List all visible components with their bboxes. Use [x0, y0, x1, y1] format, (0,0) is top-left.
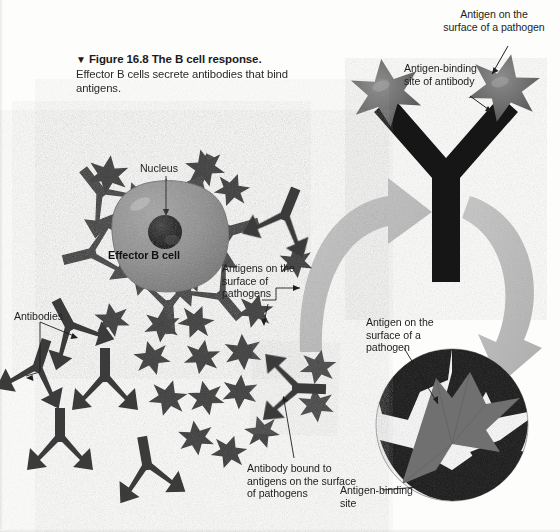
label-antigen-on-surface-top: Antigen on the surface of a pathogen: [442, 8, 546, 33]
figure-caption-subtitle: Effector B cells secrete antibodies that…: [76, 68, 291, 95]
label-antigen-binding-site-of-antibody: Antigen-binding site of antibody: [404, 62, 488, 87]
figure-title: The B cell response.: [152, 53, 262, 65]
label-effector-b-cell: Effector B cell: [108, 249, 180, 262]
label-antigens-on-surface-of-pathogens: Antigens on the surface of pathogens: [222, 262, 312, 300]
binding-site-inset: [376, 349, 528, 501]
figure-caption-title: ▼ Figure 16.8 The B cell response.: [76, 52, 296, 67]
label-antigen-binding-site: Antigen-binding site: [340, 484, 414, 509]
figure-container: ▼ Figure 16.8 The B cell response. Effec…: [0, 0, 560, 532]
label-antibodies: Antibodies: [14, 310, 63, 323]
b-cell-nucleus: [148, 215, 182, 249]
leader-binding-site-top: [470, 96, 492, 112]
leader-antibody-bound: [283, 396, 295, 458]
figure-triangle-icon: ▼: [76, 54, 86, 65]
label-antigen-on-surface-bottom: Antigen on the surface of a pathogen: [366, 316, 458, 354]
figure-number: Figure 16.8: [89, 53, 149, 65]
label-nucleus: Nucleus: [140, 162, 178, 175]
